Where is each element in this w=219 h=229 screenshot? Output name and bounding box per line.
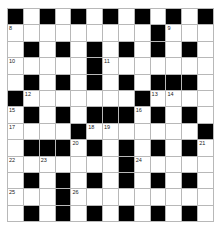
grid-cell[interactable]	[71, 25, 87, 41]
grid-cell[interactable]	[24, 124, 40, 140]
grid-cell[interactable]	[103, 75, 119, 91]
grid-cell[interactable]: 11	[103, 58, 119, 74]
grid-cell[interactable]	[87, 157, 103, 173]
grid-cell[interactable]	[71, 75, 87, 91]
grid-cell[interactable]: 18	[87, 124, 103, 140]
grid-cell[interactable]	[8, 42, 24, 58]
grid-cell[interactable]	[198, 189, 214, 205]
grid-cell[interactable]	[56, 91, 72, 107]
grid-cell[interactable]	[135, 75, 151, 91]
grid-cell[interactable]	[198, 75, 214, 91]
grid-cell[interactable]	[198, 25, 214, 41]
grid-cell[interactable]: 9	[166, 25, 182, 41]
grid-cell[interactable]	[103, 189, 119, 205]
grid-cell[interactable]	[24, 25, 40, 41]
grid-cell[interactable]	[40, 206, 56, 222]
grid-cell[interactable]	[182, 124, 198, 140]
grid-cell[interactable]: 15	[8, 107, 24, 123]
grid-cell[interactable]	[87, 25, 103, 41]
grid-cell[interactable]	[182, 58, 198, 74]
grid-cell[interactable]: 12	[24, 91, 40, 107]
grid-cell[interactable]: 17	[8, 124, 24, 140]
grid-cell[interactable]: 23	[40, 157, 56, 173]
grid-cell[interactable]: 25	[8, 189, 24, 205]
grid-cell[interactable]	[119, 124, 135, 140]
grid-cell[interactable]	[135, 25, 151, 41]
grid-cell[interactable]	[40, 75, 56, 91]
grid-cell[interactable]	[8, 206, 24, 222]
grid-cell[interactable]	[182, 157, 198, 173]
grid-cell[interactable]	[71, 206, 87, 222]
grid-cell[interactable]	[135, 206, 151, 222]
grid-cell[interactable]: 22	[8, 157, 24, 173]
grid-cell[interactable]: 20	[71, 140, 87, 156]
grid-cell[interactable]	[40, 107, 56, 123]
grid-cell[interactable]	[103, 206, 119, 222]
grid-cell[interactable]	[87, 9, 103, 25]
grid-cell[interactable]	[119, 91, 135, 107]
grid-cell[interactable]	[56, 124, 72, 140]
grid-cell[interactable]	[166, 42, 182, 58]
grid-cell[interactable]	[166, 189, 182, 205]
grid-cell[interactable]	[135, 124, 151, 140]
grid-cell[interactable]	[151, 157, 167, 173]
grid-cell[interactable]	[103, 42, 119, 58]
grid-cell[interactable]	[198, 157, 214, 173]
grid-cell[interactable]	[151, 124, 167, 140]
grid-cell[interactable]	[40, 42, 56, 58]
grid-cell[interactable]	[182, 25, 198, 41]
grid-cell[interactable]	[182, 189, 198, 205]
grid-cell[interactable]	[135, 42, 151, 58]
grid-cell[interactable]: 13	[151, 91, 167, 107]
grid-cell[interactable]	[166, 173, 182, 189]
grid-cell[interactable]	[24, 9, 40, 25]
grid-cell[interactable]	[56, 9, 72, 25]
grid-cell[interactable]	[40, 124, 56, 140]
grid-cell[interactable]	[166, 157, 182, 173]
grid-cell[interactable]	[103, 173, 119, 189]
grid-cell[interactable]	[166, 58, 182, 74]
grid-cell[interactable]	[71, 173, 87, 189]
grid-cell[interactable]	[182, 9, 198, 25]
grid-cell[interactable]	[119, 25, 135, 41]
grid-cell[interactable]	[198, 206, 214, 222]
grid-cell[interactable]	[56, 58, 72, 74]
grid-cell[interactable]	[24, 157, 40, 173]
grid-cell[interactable]	[40, 173, 56, 189]
grid-cell[interactable]: 8	[8, 25, 24, 41]
grid-cell[interactable]	[24, 189, 40, 205]
grid-cell[interactable]	[151, 189, 167, 205]
grid-cell[interactable]	[166, 140, 182, 156]
grid-cell[interactable]	[56, 157, 72, 173]
grid-cell[interactable]	[8, 173, 24, 189]
grid-cell[interactable]: 14	[166, 91, 182, 107]
grid-cell[interactable]	[71, 157, 87, 173]
grid-cell[interactable]: 19	[103, 124, 119, 140]
grid-cell[interactable]	[87, 91, 103, 107]
grid-cell[interactable]	[103, 157, 119, 173]
grid-cell[interactable]	[198, 91, 214, 107]
grid-cell[interactable]	[151, 9, 167, 25]
grid-cell[interactable]	[135, 173, 151, 189]
grid-cell[interactable]	[103, 91, 119, 107]
grid-cell[interactable]	[166, 206, 182, 222]
grid-cell[interactable]	[166, 124, 182, 140]
grid-cell[interactable]	[71, 91, 87, 107]
grid-cell[interactable]	[56, 25, 72, 41]
grid-cell[interactable]	[151, 58, 167, 74]
grid-cell[interactable]	[87, 189, 103, 205]
grid-cell[interactable]	[71, 58, 87, 74]
grid-cell[interactable]: 10	[8, 58, 24, 74]
grid-cell[interactable]	[119, 9, 135, 25]
grid-cell[interactable]	[8, 140, 24, 156]
grid-cell[interactable]	[71, 107, 87, 123]
grid-cell[interactable]	[198, 58, 214, 74]
grid-cell[interactable]	[103, 25, 119, 41]
grid-cell[interactable]	[40, 58, 56, 74]
grid-cell[interactable]	[24, 58, 40, 74]
grid-cell[interactable]	[198, 42, 214, 58]
grid-cell[interactable]	[119, 189, 135, 205]
grid-cell[interactable]	[135, 58, 151, 74]
grid-cell[interactable]	[182, 91, 198, 107]
grid-cell[interactable]	[198, 107, 214, 123]
